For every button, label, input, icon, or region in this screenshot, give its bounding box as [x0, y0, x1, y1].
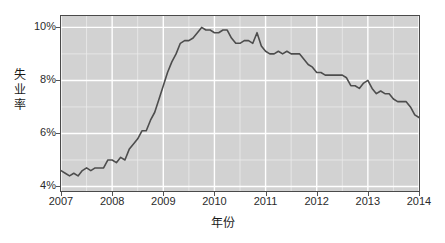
x-tick-label-2011: 2011 [246, 195, 286, 207]
x-tick-mark [419, 192, 420, 196]
x-tick-label-2008: 2008 [92, 195, 132, 207]
x-tick-mark [61, 192, 62, 196]
unemployment-line-chart: 失 业 率 4%6%8%10% 200720082009201020112012… [0, 0, 445, 243]
x-tick-label-2014: 2014 [399, 195, 439, 207]
x-tick-label-2013: 2013 [348, 195, 388, 207]
x-tick-label-2009: 2009 [143, 195, 183, 207]
x-axis-title: 年份 [0, 213, 445, 230]
x-tick-mark [368, 192, 369, 196]
x-axis-ticks: 20072008200920102011201220132014 [0, 0, 445, 243]
x-tick-mark [214, 192, 215, 196]
x-tick-label-2012: 2012 [297, 195, 337, 207]
x-tick-label-2007: 2007 [41, 195, 81, 207]
x-tick-mark [163, 192, 164, 196]
x-tick-label-2010: 2010 [194, 195, 234, 207]
x-tick-mark [112, 192, 113, 196]
x-tick-mark [317, 192, 318, 196]
x-tick-mark [266, 192, 267, 196]
